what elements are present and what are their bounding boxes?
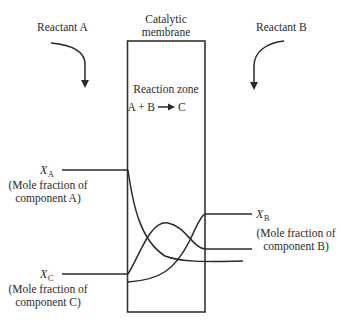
svg-text:X: X (39, 267, 48, 281)
xb-profile-curve (128, 214, 205, 282)
reaction-zone-label: Reaction zone (133, 83, 198, 95)
svg-text:X: X (255, 207, 264, 221)
xc-desc-line1: (Mole fraction of (8, 283, 87, 296)
xb-desc-line2: component B) (263, 240, 329, 253)
reactant-b-arrow-icon (250, 41, 284, 90)
xc-symbol: X C (39, 267, 53, 283)
xa-desc-line1: (Mole fraction of (8, 179, 87, 192)
xb-symbol: X B (255, 207, 269, 223)
reaction-lhs: A + B (127, 101, 155, 113)
svg-text:X: X (39, 163, 48, 177)
reactant-b-label: Reactant B (256, 21, 307, 33)
reactant-a-label: Reactant A (37, 21, 88, 33)
membrane-label-line2: membrane (142, 26, 191, 38)
xc-profile-curve (128, 223, 205, 274)
xa-symbol: X A (39, 163, 54, 179)
xa-desc-line2: component A) (15, 192, 81, 205)
svg-text:A: A (48, 170, 54, 179)
membrane-label-line1: Catalytic (145, 13, 187, 26)
svg-text:B: B (264, 214, 269, 223)
xc-desc-line2: component C) (15, 296, 81, 309)
xb-desc-line1: (Mole fraction of (256, 227, 335, 240)
reaction-rhs: C (178, 101, 186, 113)
svg-text:C: C (48, 274, 53, 283)
reaction-arrow-icon (158, 104, 175, 111)
diagram-canvas: Reactant A Reactant B Catalytic membrane… (0, 0, 341, 326)
reactant-a-arrow-icon (51, 43, 89, 88)
